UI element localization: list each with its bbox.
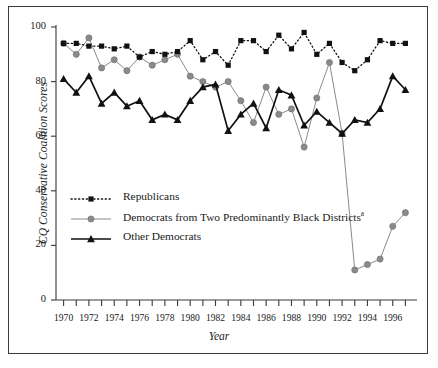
data-point-square — [238, 38, 243, 43]
data-point-square — [137, 54, 142, 59]
data-point-square — [74, 41, 79, 46]
x-tick-label: 1996 — [376, 312, 410, 323]
y-tick-label: 0 — [20, 293, 46, 304]
data-point-circle — [288, 106, 294, 112]
y-tick-label: 40 — [20, 184, 46, 195]
legend-item-1 — [71, 196, 111, 201]
y-tick-label: 100 — [20, 20, 46, 31]
data-point-square — [112, 46, 117, 51]
data-point-triangle — [136, 97, 144, 104]
data-point-circle — [250, 119, 256, 125]
data-point-circle — [225, 79, 231, 85]
data-point-triangle — [351, 116, 359, 123]
legend-label-3: Other Democrats — [123, 230, 201, 242]
y-tick-label: 80 — [20, 75, 46, 86]
data-point-square — [289, 46, 294, 51]
data-point-triangle — [161, 110, 169, 117]
data-point-square — [365, 57, 370, 62]
data-point-circle — [326, 59, 332, 65]
data-point-circle — [111, 57, 117, 63]
data-point-circle — [162, 57, 168, 63]
data-point-square — [327, 41, 332, 46]
data-point-circle — [314, 95, 320, 101]
data-point-circle — [352, 267, 358, 273]
data-point-circle — [124, 68, 130, 74]
data-point-square — [200, 57, 205, 62]
legend-label-1: Republicans — [123, 190, 179, 202]
data-point-circle — [390, 223, 396, 229]
data-point-triangle — [60, 75, 68, 82]
data-point-circle — [402, 210, 408, 216]
legend-label-2: Democrats from Two Predominantly Black D… — [123, 210, 364, 223]
data-point-square — [251, 38, 256, 43]
data-point-square — [276, 33, 281, 38]
series-1 — [61, 30, 408, 73]
series-line — [64, 32, 406, 70]
data-point-square — [226, 63, 231, 68]
series-line — [64, 76, 406, 133]
data-point-triangle — [212, 80, 220, 87]
data-point-circle — [377, 256, 383, 262]
data-point-square — [213, 49, 218, 54]
data-point-circle — [263, 84, 269, 90]
data-point-square — [150, 49, 155, 54]
y-tick-label: 20 — [20, 238, 46, 249]
data-point-square — [352, 68, 357, 73]
data-point-square — [175, 49, 180, 54]
data-point-circle — [149, 62, 155, 68]
data-point-square — [302, 30, 307, 35]
chart-plot-area — [9, 7, 427, 353]
data-point-square — [124, 44, 129, 49]
data-point-square — [162, 52, 167, 57]
series-3 — [60, 72, 410, 136]
y-axis-title: CQ Conservative Coalition Scores — [37, 63, 49, 263]
data-point-square — [88, 196, 93, 201]
data-point-circle — [86, 35, 92, 41]
y-tick-label: 60 — [20, 129, 46, 140]
data-point-circle — [276, 111, 282, 117]
data-point-triangle — [250, 100, 258, 107]
figure-container: CQ Conservative Coalition Scores 0204060… — [0, 0, 438, 368]
data-point-circle — [187, 73, 193, 79]
data-point-circle — [301, 144, 307, 150]
data-point-square — [61, 41, 66, 46]
data-point-circle — [238, 98, 244, 104]
data-point-square — [264, 49, 269, 54]
data-point-square — [314, 52, 319, 57]
data-point-square — [188, 38, 193, 43]
data-point-square — [340, 60, 345, 65]
data-point-square — [403, 41, 408, 46]
data-point-triangle — [262, 124, 270, 131]
legend-item-3 — [71, 235, 111, 242]
data-point-triangle — [110, 89, 118, 96]
data-point-square — [377, 38, 382, 43]
data-point-triangle — [85, 72, 93, 79]
legend-item-2 — [71, 216, 111, 222]
data-point-triangle — [275, 86, 283, 93]
data-point-triangle — [389, 72, 397, 79]
data-point-square — [99, 44, 104, 49]
data-point-circle — [88, 216, 94, 222]
x-axis-title: Year — [0, 330, 438, 342]
data-point-circle — [98, 65, 104, 71]
data-point-triangle — [376, 105, 384, 112]
data-point-square — [86, 44, 91, 49]
data-point-square — [390, 41, 395, 46]
data-point-circle — [364, 261, 370, 267]
data-point-circle — [73, 51, 79, 57]
chart-frame: CQ Conservative Coalition Scores 0204060… — [8, 6, 428, 354]
